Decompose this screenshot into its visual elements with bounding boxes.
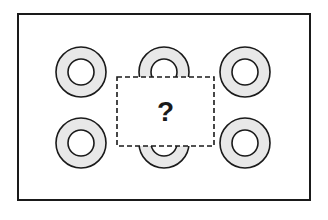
question-mark: ?: [117, 77, 214, 146]
ring-bottom-left: [56, 118, 106, 168]
ring-top-right: [220, 47, 270, 97]
ring-top-left: [56, 47, 106, 97]
ring-bottom-right: [220, 118, 270, 168]
